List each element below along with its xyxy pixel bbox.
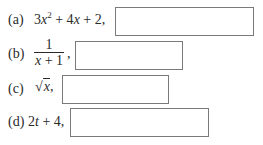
term: + 1	[41, 53, 63, 68]
numerator: 1	[34, 38, 64, 52]
item-b-label: (b)	[8, 46, 24, 62]
term: + 4,	[39, 114, 64, 129]
radicand: x	[43, 78, 50, 94]
item-b-fraction: 1 x + 1	[34, 38, 64, 68]
item-d-label: (d)	[8, 114, 24, 130]
answer-box-c[interactable]	[62, 75, 169, 104]
answer-box-d[interactable]	[70, 108, 209, 137]
radical-icon: √	[35, 79, 43, 94]
item-d-expression: 2t + 4,	[28, 114, 64, 130]
denominator: x + 1	[34, 52, 64, 68]
item-c-sqrt: √x,	[35, 79, 53, 95]
coef: 2	[28, 114, 35, 129]
term: + 2,	[80, 12, 105, 27]
item-a-expression: 3x2 + 4x + 2,	[34, 12, 105, 28]
coef: 3	[34, 12, 41, 27]
term: + 4	[52, 12, 74, 27]
item-b-comma: ,	[67, 46, 71, 62]
answer-box-b[interactable]	[75, 41, 183, 70]
item-a-label: (a)	[8, 12, 24, 28]
answer-box-a[interactable]	[115, 7, 254, 36]
comma: ,	[50, 79, 54, 94]
item-c-label: (c)	[8, 81, 24, 97]
